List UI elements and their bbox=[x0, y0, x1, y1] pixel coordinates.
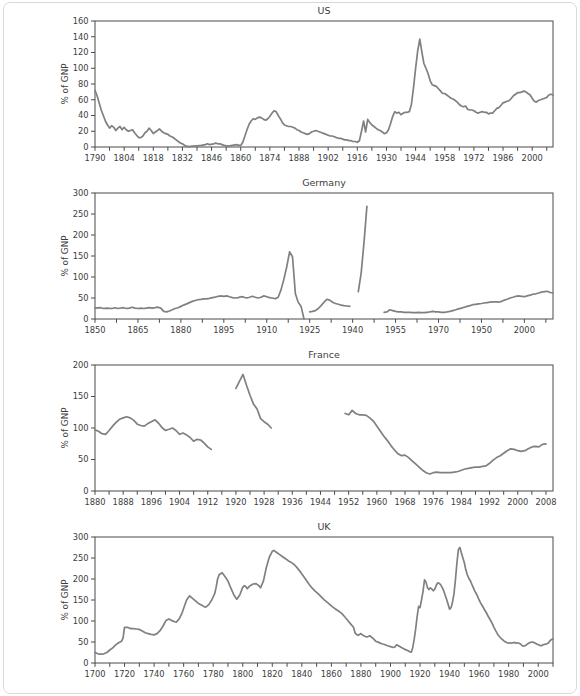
x-tick-label: 1860 bbox=[230, 153, 251, 163]
x-tick-label: 1880 bbox=[170, 325, 191, 335]
x-tick-label: 1960 bbox=[366, 497, 387, 507]
x-tick-label: 1904 bbox=[169, 497, 190, 507]
x-tick-label: 1818 bbox=[143, 153, 164, 163]
y-tick-label: 50 bbox=[78, 293, 89, 303]
y-tick-label: 120 bbox=[73, 47, 89, 57]
y-tick-label: 100 bbox=[73, 272, 89, 282]
x-tick-label: 1920 bbox=[409, 669, 430, 679]
x-tick-label: 1950 bbox=[471, 325, 492, 335]
x-tick-label: 1832 bbox=[172, 153, 193, 163]
x-tick-label: 1944 bbox=[310, 497, 331, 507]
x-tick-label: 1972 bbox=[463, 153, 484, 163]
x-tick-label: 2000 bbox=[507, 497, 528, 507]
x-tick-label: 1700 bbox=[84, 669, 105, 679]
x-tick-label: 1720 bbox=[114, 669, 135, 679]
y-axis-label: % of GNP bbox=[60, 579, 70, 620]
x-tick-label: 1944 bbox=[405, 153, 426, 163]
x-tick-label: 1940 bbox=[342, 325, 363, 335]
x-tick-label: 1790 bbox=[84, 153, 105, 163]
x-tick-label: 1970 bbox=[428, 325, 449, 335]
x-tick-label: 1955 bbox=[385, 325, 406, 335]
x-tick-label: 1925 bbox=[299, 325, 320, 335]
plot-frame bbox=[95, 193, 553, 319]
x-tick-label: 1888 bbox=[288, 153, 309, 163]
x-tick-label: 1916 bbox=[347, 153, 368, 163]
y-tick-label: 0 bbox=[83, 314, 88, 324]
x-tick-label: 1874 bbox=[259, 153, 280, 163]
x-tick-label: 1896 bbox=[141, 497, 162, 507]
y-tick-label: 0 bbox=[83, 486, 88, 496]
x-tick-label: 1840 bbox=[291, 669, 312, 679]
charts-stack: US% of GNP020406080100120140160179018041… bbox=[0, 3, 580, 691]
y-tick-label: 50 bbox=[78, 637, 89, 647]
x-tick-label: 1930 bbox=[376, 153, 397, 163]
x-tick-label: 1900 bbox=[380, 669, 401, 679]
x-tick-label: 2000 bbox=[514, 325, 535, 335]
germany-debt-line bbox=[95, 252, 304, 319]
x-tick-label: 1920 bbox=[225, 497, 246, 507]
x-tick-label: 1902 bbox=[318, 153, 339, 163]
y-tick-label: 20 bbox=[78, 126, 89, 136]
x-tick-label: 1952 bbox=[338, 497, 359, 507]
x-tick-label: 1984 bbox=[451, 497, 472, 507]
y-tick-label: 300 bbox=[73, 188, 89, 198]
y-tick-label: 0 bbox=[83, 658, 88, 668]
germany-chart: Germany% of GNP0501001502002503001850186… bbox=[0, 175, 580, 347]
x-tick-label: 1940 bbox=[439, 669, 460, 679]
y-tick-label: 150 bbox=[73, 391, 89, 401]
y-tick-label: 160 bbox=[73, 16, 89, 26]
y-tick-label: 300 bbox=[73, 532, 89, 542]
x-tick-label: 2008 bbox=[535, 497, 556, 507]
uk-debt-line bbox=[95, 548, 553, 655]
x-tick-label: 1986 bbox=[492, 153, 513, 163]
y-tick-label: 50 bbox=[78, 454, 89, 464]
x-tick-label: 1992 bbox=[479, 497, 500, 507]
y-tick-label: 60 bbox=[78, 95, 89, 105]
x-tick-label: 1804 bbox=[114, 153, 135, 163]
x-tick-label: 1860 bbox=[321, 669, 342, 679]
uk-chart: UK% of GNP050100150200250300170017201740… bbox=[0, 519, 580, 691]
y-tick-label: 200 bbox=[73, 230, 89, 240]
x-tick-label: 1850 bbox=[84, 325, 105, 335]
x-tick-label: 1980 bbox=[498, 669, 519, 679]
x-tick-label: 1976 bbox=[423, 497, 444, 507]
x-tick-label: 1958 bbox=[434, 153, 455, 163]
x-tick-label: 1880 bbox=[350, 669, 371, 679]
y-axis-label: % of GNP bbox=[60, 63, 70, 104]
y-tick-label: 40 bbox=[78, 110, 89, 120]
y-tick-label: 150 bbox=[73, 251, 89, 261]
x-tick-label: 1880 bbox=[84, 497, 105, 507]
x-tick-label: 1895 bbox=[213, 325, 234, 335]
chart-title: US bbox=[318, 5, 331, 16]
plot-frame bbox=[95, 21, 553, 147]
y-axis-label: % of GNP bbox=[60, 407, 70, 448]
x-tick-label: 2000 bbox=[528, 669, 549, 679]
x-tick-label: 1928 bbox=[254, 497, 275, 507]
x-tick-label: 1800 bbox=[232, 669, 253, 679]
x-tick-label: 1846 bbox=[201, 153, 222, 163]
germany-debt-line bbox=[358, 206, 367, 291]
x-tick-label: 2000 bbox=[522, 153, 543, 163]
x-tick-label: 1960 bbox=[469, 669, 490, 679]
y-tick-label: 150 bbox=[73, 595, 89, 605]
x-tick-label: 1780 bbox=[203, 669, 224, 679]
germany-debt-line bbox=[384, 291, 553, 312]
x-tick-label: 1820 bbox=[262, 669, 283, 679]
y-tick-label: 80 bbox=[78, 79, 89, 89]
france-debt-line bbox=[95, 417, 211, 450]
x-tick-label: 1910 bbox=[256, 325, 277, 335]
y-tick-label: 200 bbox=[73, 574, 89, 584]
y-tick-label: 200 bbox=[73, 360, 89, 370]
us-chart: US% of GNP020406080100120140160179018041… bbox=[0, 3, 580, 175]
x-tick-label: 1740 bbox=[144, 669, 165, 679]
y-tick-label: 140 bbox=[73, 32, 89, 42]
y-tick-label: 100 bbox=[73, 616, 89, 626]
chart-title: France bbox=[308, 349, 340, 360]
y-axis-label: % of GNP bbox=[60, 235, 70, 276]
x-tick-label: 1912 bbox=[197, 497, 218, 507]
x-tick-label: 1760 bbox=[173, 669, 194, 679]
y-tick-label: 100 bbox=[73, 63, 89, 73]
y-tick-label: 0 bbox=[83, 142, 88, 152]
france-chart: France% of GNP05010015020018801888189619… bbox=[0, 347, 580, 519]
chart-title: Germany bbox=[302, 177, 346, 188]
